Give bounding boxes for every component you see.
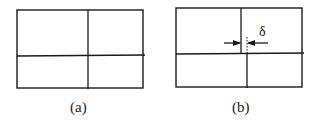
caption-b: (b) xyxy=(232,100,250,115)
panel-b-horizontal-divider xyxy=(176,53,304,54)
panel-b-figure xyxy=(176,8,304,88)
panel-a-figure xyxy=(17,10,145,89)
panel-a-outer-rect xyxy=(17,10,143,88)
caption-a: (a) xyxy=(70,100,87,115)
delta-label: δ xyxy=(259,25,266,39)
diagram-canvas xyxy=(0,0,318,122)
panel-b-outer-rect xyxy=(176,8,302,87)
panel-a-horizontal-divider xyxy=(17,55,145,56)
